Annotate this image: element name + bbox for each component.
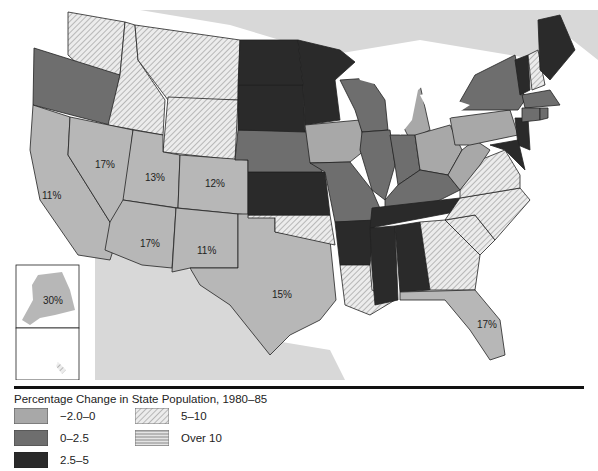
legend-item-low: 0–2.5 bbox=[14, 430, 89, 446]
state-rhode-island bbox=[540, 108, 548, 120]
legend-label: 0–2.5 bbox=[60, 432, 89, 444]
state-label-new-mexico: 11% bbox=[197, 245, 216, 256]
state-label-alaska: 30% bbox=[43, 295, 63, 306]
legend-swatch-dark-gray bbox=[14, 430, 48, 446]
hawaii-inset bbox=[16, 328, 79, 380]
state-label-utah: 13% bbox=[145, 172, 165, 183]
state-label-arizona: 17% bbox=[140, 238, 160, 249]
state-massachusetts bbox=[522, 90, 560, 108]
state-connecticut bbox=[522, 108, 540, 122]
state-new-york bbox=[455, 55, 525, 110]
state-label-texas: 15% bbox=[272, 289, 292, 300]
legend-item-mid: 2.5–5 bbox=[14, 452, 89, 468]
state-south-dakota bbox=[238, 85, 305, 132]
state-new-mexico bbox=[172, 208, 238, 272]
legend-label: 5–10 bbox=[181, 410, 207, 422]
state-wyoming bbox=[163, 97, 238, 160]
state-arkansas bbox=[335, 220, 375, 265]
legend-item-med: 5–10 bbox=[135, 408, 207, 424]
state-label-california: 11% bbox=[42, 190, 61, 201]
legend-label: −2.0–0 bbox=[60, 410, 96, 422]
state-label-colorado: 12% bbox=[205, 178, 225, 189]
divider-rule bbox=[14, 386, 584, 389]
legend-item-high: Over 10 bbox=[135, 430, 222, 446]
legend-swatch-light-gray bbox=[14, 408, 48, 424]
state-north-dakota bbox=[238, 40, 303, 85]
state-mississippi bbox=[370, 226, 398, 305]
legend-swatch-horizontal bbox=[135, 430, 169, 446]
legend-item-neg: −2.0–0 bbox=[14, 408, 96, 424]
state-pennsylvania bbox=[450, 110, 518, 145]
legend-label: Over 10 bbox=[181, 432, 222, 444]
us-population-change-map: 11%17%13%12%17%11%15%17%30% bbox=[0, 0, 598, 380]
legend-swatch-black bbox=[14, 452, 48, 468]
legend-label: 2.5–5 bbox=[60, 454, 89, 466]
state-iowa bbox=[305, 120, 365, 163]
legend-title: Percentage Change in State Population, 1… bbox=[14, 393, 267, 405]
state-kansas bbox=[248, 172, 330, 215]
legend-swatch-diagonal bbox=[135, 408, 169, 424]
state-label-nevada: 17% bbox=[95, 159, 115, 170]
state-label-florida: 17% bbox=[477, 319, 497, 330]
